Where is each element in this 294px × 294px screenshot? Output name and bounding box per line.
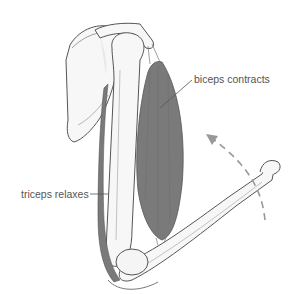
biceps-label: biceps contracts	[194, 73, 270, 85]
arm-muscle-diagram	[0, 0, 294, 294]
arrowhead-icon	[206, 134, 218, 145]
biceps-muscle	[137, 44, 183, 252]
triceps-label: triceps relaxes	[21, 188, 89, 200]
